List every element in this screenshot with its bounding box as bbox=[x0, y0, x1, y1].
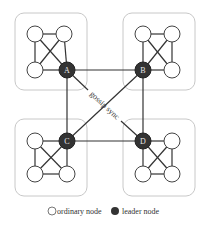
ordinary-node-icon bbox=[164, 166, 180, 182]
leader-label-c: C bbox=[64, 137, 69, 146]
leader-label-d: D bbox=[140, 137, 146, 146]
leader-node-b: B bbox=[135, 62, 151, 78]
leader-label-b: B bbox=[140, 66, 145, 75]
leader-label-a: A bbox=[64, 66, 70, 75]
ordinary-node-icon bbox=[135, 26, 151, 42]
ordinary-node-icon bbox=[164, 62, 180, 78]
ordinary-node-icon bbox=[164, 133, 180, 149]
group-box-d bbox=[123, 119, 195, 196]
cluster-diagram: gossip sync A B bbox=[0, 0, 207, 232]
legend-leader-label: leader node bbox=[122, 207, 160, 216]
ordinary-node-icon bbox=[164, 26, 180, 42]
ordinary-node-icon bbox=[135, 166, 151, 182]
ordinary-node-icon bbox=[27, 26, 43, 42]
legend: ordinary node leader node bbox=[48, 207, 160, 216]
diagram-canvas: gossip sync A B bbox=[0, 0, 207, 232]
ordinary-node-icon bbox=[27, 62, 43, 78]
leader-node-a: A bbox=[59, 62, 75, 78]
leader-node-legend-icon bbox=[111, 207, 119, 215]
ordinary-node-icon bbox=[27, 133, 43, 149]
legend-ordinary-label: ordinary node bbox=[57, 207, 102, 216]
ordinary-node-legend-icon bbox=[48, 207, 56, 215]
leader-node-d: D bbox=[135, 133, 151, 149]
ordinary-node-icon bbox=[59, 166, 75, 182]
leader-node-c: C bbox=[59, 133, 75, 149]
ordinary-node-icon bbox=[27, 166, 43, 182]
ordinary-node-icon bbox=[56, 26, 72, 42]
